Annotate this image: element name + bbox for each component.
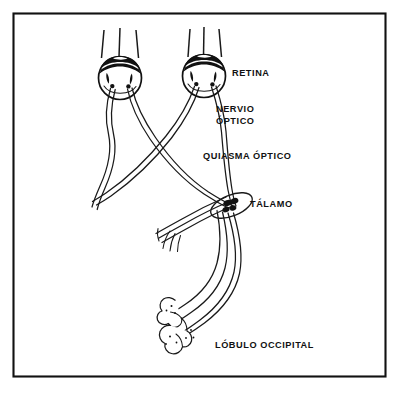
visual-pathway-diagram: RETINA NERVIO ÓPTICO QUIASMA ÓPTICO TÁLA… xyxy=(0,0,403,393)
left-eye xyxy=(99,56,142,100)
label-talamo: TÁLAMO xyxy=(250,198,293,209)
label-lobulo-occipital: LÓBULO OCCIPITAL xyxy=(215,339,314,350)
right-eye xyxy=(183,54,226,98)
label-nervio-optico-line2: ÓPTICO xyxy=(216,115,255,126)
label-nervio-optico-line1: NERVIO xyxy=(216,104,254,114)
label-quiasma-optico: QUIASMA ÓPTICO xyxy=(203,150,292,161)
label-retina: RETINA xyxy=(232,68,270,78)
diagram-canvas: RETINA NERVIO ÓPTICO QUIASMA ÓPTICO TÁLA… xyxy=(0,0,403,393)
